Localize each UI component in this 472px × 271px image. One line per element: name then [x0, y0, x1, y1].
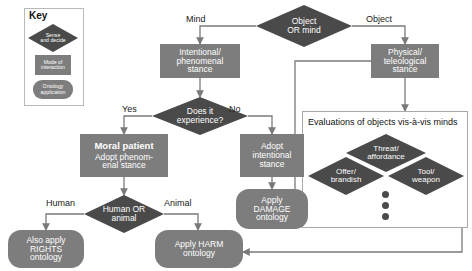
- experience-line2: experience?: [177, 116, 223, 125]
- node-also-apply-rights-ontology: Also apply RIGHTS ontology: [8, 230, 84, 268]
- ellipsis-dot-icon: [382, 213, 389, 220]
- node-apply-harm-ontology: Apply HARM ontology: [155, 230, 243, 268]
- node-intentional-phenomenal-stance: Intentional/ phenomenal stance: [160, 44, 240, 78]
- moral-patient-line2: enal stance: [102, 161, 145, 170]
- node-offer-brandish-label: Offer/ brandish: [308, 157, 384, 195]
- node-object-or-mind-label: Object OR mind: [256, 5, 352, 47]
- node-adopt-intentional-stance: Adopt intentional stance: [240, 134, 304, 177]
- offer-line2: brandish: [331, 176, 362, 184]
- moral-patient-title: Moral patient: [94, 141, 153, 151]
- edge-label-no: No: [229, 104, 241, 114]
- node-tool-weapon-label: Tool/ weapon: [388, 157, 464, 195]
- key-mode-line2: interaction: [41, 65, 65, 70]
- node-moral-patient: Moral patient Adopt phenom- enal stance: [80, 134, 168, 177]
- key-title: Key: [29, 10, 47, 21]
- key-sense-line2: and decide: [40, 38, 65, 43]
- node-physical-teleological-stance: Physical/ teleological stance: [371, 44, 439, 78]
- node-human-or-animal-label: Human OR animal: [84, 195, 164, 233]
- edge-label-human: Human: [46, 198, 75, 208]
- ellipsis-dot-icon: [382, 202, 389, 209]
- key-item-sense-and-decide: Sense and decide: [28, 24, 78, 52]
- node-offer-brandish: Offer/ brandish: [308, 157, 384, 195]
- edge-label-yes: Yes: [122, 104, 137, 114]
- edge-label-animal: Animal: [164, 198, 192, 208]
- ellipsis-dot-icon: [382, 191, 389, 198]
- physical-line3: stance: [384, 65, 427, 74]
- node-apply-damage-ontology: Apply DAMAGE ontology: [236, 189, 308, 229]
- damage-line3: ontology: [254, 213, 291, 222]
- key-ontology-line2: application: [41, 90, 66, 95]
- object-or-mind-line2: OR mind: [287, 26, 321, 35]
- evaluations-panel-title: Evaluations of objects vis-à-vis minds: [308, 117, 458, 127]
- edge-label-object: Object: [366, 14, 392, 24]
- key-item-label: Sense and decide: [28, 24, 78, 52]
- node-human-or-animal: Human OR animal: [84, 195, 164, 233]
- human-animal-line2: animal: [103, 214, 146, 223]
- node-tool-weapon: Tool/ weapon: [388, 157, 464, 195]
- adopt-intentional-line3: stance: [253, 160, 292, 169]
- node-does-it-experience-label: Does it experience?: [152, 97, 248, 135]
- harm-line2: ontology: [175, 249, 224, 258]
- edge-label-mind: Mind: [186, 14, 206, 24]
- node-object-or-mind: Object OR mind: [256, 5, 352, 47]
- tool-line2: weapon: [412, 176, 440, 184]
- node-does-it-experience: Does it experience?: [152, 97, 248, 135]
- key-item-ontology-application: Ontology application: [33, 80, 73, 99]
- key-item-mode-of-interaction: Mode of interaction: [35, 55, 71, 75]
- intentional-line3: stance: [177, 65, 224, 74]
- rights-line3: ontology: [26, 253, 65, 262]
- flowchart-canvas: Key Sense and decide Mode of interaction…: [0, 0, 472, 271]
